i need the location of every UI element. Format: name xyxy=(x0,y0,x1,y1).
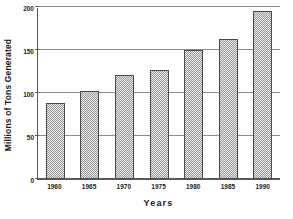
bar-chart: Millions of Tons Generated 050100150200 … xyxy=(0,0,293,219)
bar-slot xyxy=(73,8,108,179)
bars-layer xyxy=(38,8,280,179)
y-tick-label: 50 xyxy=(27,134,34,141)
bar-slot xyxy=(142,8,177,179)
bar[interactable] xyxy=(115,75,134,179)
bar[interactable] xyxy=(150,70,169,179)
y-tick-label: 0 xyxy=(30,177,34,184)
y-axis-tick-labels: 050100150200 xyxy=(16,8,36,180)
y-tick-label: 150 xyxy=(23,48,34,55)
x-axis-title: Years xyxy=(37,198,280,208)
y-axis-title-text: Millions of Tons Generated xyxy=(3,39,13,151)
bar-slot xyxy=(211,8,246,179)
x-tick-label: 1960 xyxy=(37,183,72,195)
gridline xyxy=(38,6,280,7)
bar[interactable] xyxy=(184,50,203,179)
bar[interactable] xyxy=(46,103,65,179)
x-tick-label: 1975 xyxy=(141,183,176,195)
y-tick-label: 100 xyxy=(23,91,34,98)
x-tick-label: 1990 xyxy=(245,183,280,195)
bar-slot xyxy=(245,8,280,179)
plot-area xyxy=(37,8,280,180)
x-axis-tick-labels: 1960196519701975198019851990 xyxy=(37,183,280,195)
y-tick-label: 200 xyxy=(23,5,34,12)
y-tick-mark xyxy=(35,6,39,7)
bar-slot xyxy=(107,8,142,179)
bar[interactable] xyxy=(219,39,238,179)
x-tick-label: 1980 xyxy=(176,183,211,195)
x-tick-label: 1970 xyxy=(106,183,141,195)
bar[interactable] xyxy=(80,91,99,179)
bar-slot xyxy=(176,8,211,179)
bar[interactable] xyxy=(253,11,272,179)
x-tick-label: 1985 xyxy=(211,183,246,195)
y-axis-title: Millions of Tons Generated xyxy=(0,0,16,190)
bar-slot xyxy=(38,8,73,179)
x-tick-label: 1965 xyxy=(72,183,107,195)
